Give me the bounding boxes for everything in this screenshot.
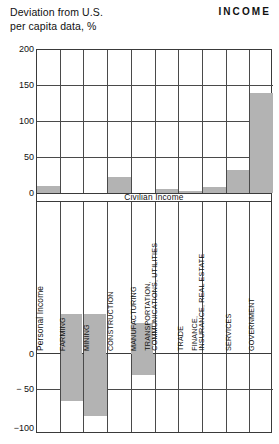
y-tick-100: 100 [19,117,34,126]
y-tick-200: 200 [19,45,34,54]
bar-services [227,170,250,193]
category-label-line: COMMUNICATIONS, UTILITIES [151,243,159,351]
bar-column [227,354,251,432]
y-tick-neg50: − 50 [16,385,34,394]
upper-bar-columns [37,50,273,193]
y-tick-0-bottom: 0 [29,350,34,359]
bar-column [108,50,132,193]
plot-area: Civilian Income Personal IncomeFARMINGMI… [36,49,272,439]
category-label-line: FARMING [59,317,67,351]
bar-mining [84,354,107,416]
lower-panel [36,354,272,433]
category-label: Personal Income [36,286,44,351]
category-label-line: GOVERNMENT [248,298,256,351]
bar-column [227,50,251,193]
bar-column [203,50,227,193]
y-tick-neg100: −100 [14,424,34,433]
category-label-line: MANUFACTURING [130,286,138,351]
category-label-cell: CONSTRUCTION [107,201,131,354]
category-label: FINANCE,INSURANCE, REAL ESTATE [191,254,206,351]
category-label: TRANSPORTATION,COMMUNICATIONS, UTILITIES [144,243,159,351]
category-label: MINING [83,324,91,351]
page-title: INCOME [218,6,271,17]
bar-column [84,354,108,432]
category-label: CONSTRUCTION [107,291,115,351]
bar-column [61,50,85,193]
upper-panel [36,49,272,194]
lower-bar-columns [37,354,273,432]
bar-column [179,354,203,432]
chart-header: Deviation from U.S. per capita data, % I… [0,0,279,44]
bar-column [250,50,273,193]
category-label-cell: TRANSPORTATION,COMMUNICATIONS, UTILITIES [154,201,178,354]
category-label-line: SERVICES [225,314,233,351]
bar-construction [108,177,131,193]
bar-column [37,354,61,432]
category-label: FARMING [59,317,67,351]
subtitle-line-2: per capita data, % [10,19,103,33]
y-axis: 200 150 100 50 0 0 − 50 −100 [0,49,34,439]
y-tick-0-top: 0 [29,189,34,198]
bar-column [132,50,156,193]
bar-column [179,50,203,193]
bar-farming [61,354,84,401]
bar-column [84,50,108,193]
bar-column [156,50,180,193]
bar-column [108,354,132,432]
category-label-cell: FARMING [60,201,84,354]
chart-subtitle: Deviation from U.S. per capita data, % [10,5,103,33]
bar-column [156,354,180,432]
category-label-cell: MINING [83,201,107,354]
subtitle-line-1: Deviation from U.S. [10,5,103,19]
category-label: SERVICES [225,314,233,351]
category-label-cell: SERVICES [225,201,249,354]
bar-column [203,354,227,432]
category-label: MANUFACTURING [130,286,138,351]
bar-personal-income [37,186,60,193]
category-label: TRADE [177,326,185,351]
bar-column [37,50,61,193]
category-label-line: MINING [83,324,91,351]
category-label-cell: FINANCE,INSURANCE, REAL ESTATE [201,201,225,354]
y-tick-150: 150 [19,81,34,90]
bar-manufacturing [132,354,155,375]
y-tick-50: 50 [24,153,34,162]
bar-column [132,354,156,432]
category-label-line: TRADE [177,326,185,351]
category-label-line: Personal Income [36,286,44,351]
bar-column [61,354,85,432]
category-label: GOVERNMENT [248,298,256,351]
category-label-line: INSURANCE, REAL ESTATE [198,254,206,351]
chart-page: Deviation from U.S. per capita data, % I… [0,0,279,444]
category-label-line: CONSTRUCTION [107,291,115,351]
bar-column [250,354,273,432]
bar-government [250,93,273,193]
category-label-cell: Personal Income [36,201,60,354]
category-label-cell: GOVERNMENT [248,201,272,354]
category-labels: Personal IncomeFARMINGMININGCONSTRUCTION… [36,201,272,354]
